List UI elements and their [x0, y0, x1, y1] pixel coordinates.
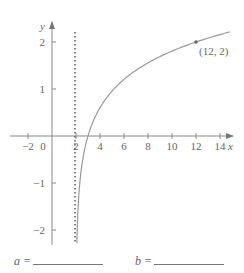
- answer-a-blank[interactable]: [33, 253, 103, 265]
- y-tick-label: 2: [40, 36, 46, 48]
- y-tick-label: −1: [33, 177, 45, 189]
- labeled-point: [194, 40, 198, 44]
- x-tick-label: 8: [145, 140, 151, 152]
- answer-b-label: b =: [135, 254, 152, 268]
- x-tick-label: 4: [97, 140, 103, 152]
- x-tick-label: 2: [73, 140, 79, 152]
- x-tick-label: 10: [167, 140, 179, 152]
- log-function-chart: x y −202468101214 −2−112 (12, 2): [0, 0, 244, 250]
- x-tick-label: 12: [191, 140, 202, 152]
- x-tick-label: −2: [22, 140, 34, 152]
- x-tick-label: 6: [121, 140, 127, 152]
- y-tick-label: −2: [33, 224, 45, 236]
- x-tick-label: 0: [40, 140, 46, 152]
- x-tick-label: 14: [215, 140, 227, 152]
- answer-b-blank[interactable]: [154, 253, 224, 265]
- y-tick-label: 1: [40, 83, 46, 95]
- x-axis-label: x: [227, 140, 233, 152]
- point-label: (12, 2): [199, 45, 229, 58]
- answer-a: a =: [14, 253, 103, 269]
- answer-a-label: a =: [14, 254, 31, 268]
- answer-b: b =: [135, 253, 224, 269]
- y-axis-label: y: [39, 20, 45, 32]
